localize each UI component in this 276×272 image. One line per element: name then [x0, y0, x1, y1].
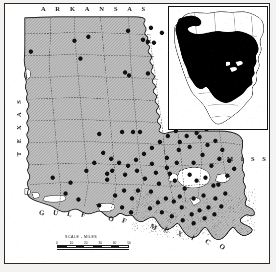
scale-bar-segment [119, 246, 128, 247]
figure-container: A R K A N S A S T E X A S M I S S . GULF… [0, 0, 276, 272]
scale-bar-segment [58, 246, 67, 247]
scale-bar-graphic [57, 245, 129, 248]
scale-bar-segment [102, 246, 111, 247]
scale-tick-label: 10 [70, 241, 74, 245]
scale-tick-label: 30 [98, 241, 102, 245]
scale-tick-label: 0 [56, 241, 58, 245]
gulf-label-char: L [66, 211, 72, 219]
scale-bar-segment [93, 246, 102, 247]
north-america-range-inset [168, 6, 268, 130]
scale-tick-label: 20 [84, 241, 88, 245]
scale-bar-segment [111, 246, 120, 247]
scale-bar-segment [76, 246, 85, 247]
north-america-range-canvas [169, 7, 267, 129]
scale-bar-rule [57, 249, 129, 250]
scale-bar-segment [84, 246, 93, 247]
scale-bar-ticks: 01020304050 [57, 241, 129, 245]
scale-bar-title: SCALE - MILES [65, 235, 97, 239]
scale-bar-segment [67, 246, 76, 247]
scale-tick-label: 40 [113, 241, 117, 245]
scale-bar: SCALE - MILES 01020304050 [57, 235, 129, 252]
scale-tick-label: 50 [127, 241, 131, 245]
map-frame: A R K A N S A S T E X A S M I S S . GULF… [4, 3, 270, 264]
